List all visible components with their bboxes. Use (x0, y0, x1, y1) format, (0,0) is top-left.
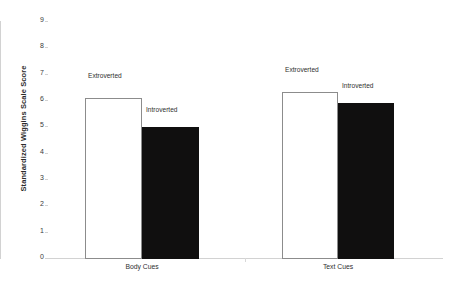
y-tick-label-2: 2 (0, 200, 44, 210)
y-tick-mark-1 (45, 232, 48, 233)
category-label-text-cues: Text Cues (278, 263, 398, 270)
bar-label-text-cues-introverted: Introverted (342, 82, 374, 89)
y-tick-label-6: 6 (0, 95, 44, 105)
y-tick-label-8: 8 (0, 42, 44, 52)
y-tick-mark-7 (45, 74, 48, 75)
category-label-body-cues: Body Cues (82, 263, 202, 270)
bar-label-text-cues-extroverted: Extroverted (285, 66, 319, 73)
bar-chart: Standardized Wiggins Scale Score 9 8 7 6… (0, 0, 452, 282)
y-tick-label-5: 5 (0, 121, 44, 131)
bar-body-cues-introverted (142, 127, 199, 259)
y-tick-label-4: 4 (0, 148, 44, 158)
y-tick-mark-9 (45, 21, 48, 22)
y-tick-label-1: 1 (0, 227, 44, 237)
y-tick-mark-4 (45, 153, 48, 154)
y-tick-mark-2 (45, 205, 48, 206)
bar-label-body-cues-extroverted: Extroverted (88, 72, 122, 79)
category-divider-tick (245, 258, 246, 262)
y-tick-label-0: 0 (0, 253, 44, 263)
y-tick-mark-6 (45, 100, 48, 101)
y-tick-mark-8 (45, 47, 48, 48)
y-tick-mark-0 (45, 258, 48, 259)
bar-text-cues-extroverted (282, 92, 338, 259)
y-tick-mark-3 (45, 179, 48, 180)
bar-label-body-cues-introverted: Introverted (146, 106, 178, 113)
y-tick-label-7: 7 (0, 69, 44, 79)
y-tick-label-9: 9 (0, 16, 44, 26)
y-tick-mark-5 (45, 126, 48, 127)
y-axis-line (0, 21, 1, 259)
y-tick-label-3: 3 (0, 174, 44, 184)
bar-body-cues-extroverted (85, 98, 142, 259)
bar-text-cues-introverted (338, 103, 394, 260)
